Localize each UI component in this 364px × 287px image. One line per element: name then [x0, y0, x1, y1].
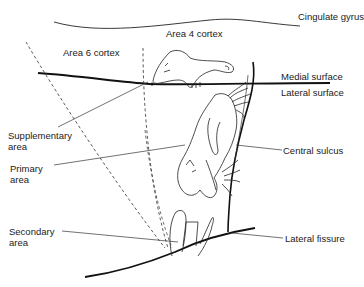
secondary-leader [62, 231, 178, 242]
supplementary-simunculus [153, 50, 234, 88]
supplementary-leader [58, 82, 148, 127]
label-supplementary-area: Supplementary area [8, 130, 72, 152]
label-primary-area: Primary area [10, 163, 43, 185]
lateral-fissure-leader [232, 233, 283, 238]
label-area6-cortex: Area 6 cortex [63, 47, 120, 58]
label-lateral-fissure: Lateral fissure [285, 233, 345, 244]
central-sulcus-leader [236, 145, 282, 150]
label-medial-surface: Medial surface [281, 71, 343, 82]
label-lateral-surface: Lateral surface [281, 87, 344, 98]
label-cingulate-gyrus: Cingulate gyrus [298, 11, 364, 22]
secondary-figure [170, 210, 214, 256]
central-sulcus-line [228, 62, 254, 232]
label-central-sulcus: Central sulcus [283, 145, 343, 156]
primary-leader [54, 145, 185, 165]
label-secondary-area: Secondary area [9, 226, 54, 248]
label-area4-cortex: Area 4 cortex [166, 28, 223, 39]
